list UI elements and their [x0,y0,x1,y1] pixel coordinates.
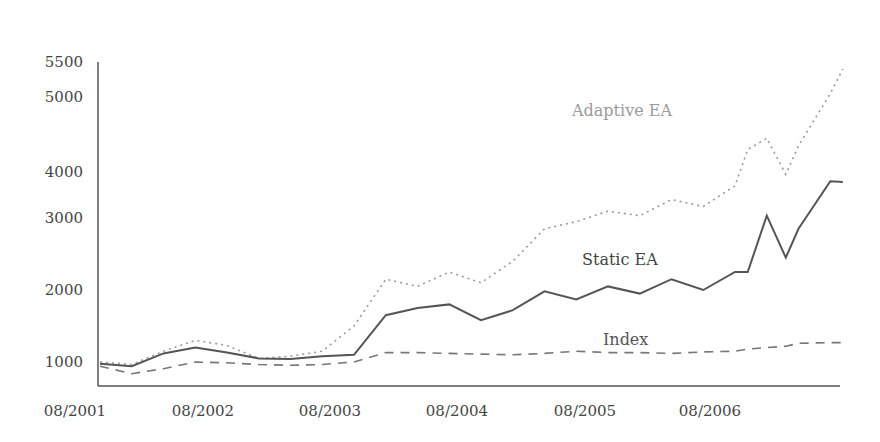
y-tick-1000: 1000 [45,353,83,371]
x-tick-2005: 08/2005 [554,402,616,420]
index-line [100,343,843,374]
x-tick-2001: 08/2001 [44,402,106,420]
x-tick-2003: 08/2003 [299,402,361,420]
x-tick-2004: 08/2004 [426,402,488,420]
y-tick-2000: 2000 [45,281,83,299]
static-ea-line [100,181,843,366]
series-layer [100,69,843,374]
series-labels: Adaptive EA Static EA Index [571,101,672,349]
y-tick-5500: 5500 [45,53,83,71]
x-tick-2002: 08/2002 [172,402,234,420]
line-chart: 5500 5000 4000 3000 2000 1000 08/2001 08… [0,0,880,442]
x-tick-2006: 08/2006 [679,402,741,420]
adaptive-ea-line [100,69,843,365]
y-tick-4000: 4000 [45,163,83,181]
static-ea-label: Static EA [582,250,658,269]
index-label: Index [603,330,648,349]
x-axis: 08/2001 08/2002 08/2003 08/2004 08/2005 … [44,386,840,420]
y-tick-5000: 5000 [45,88,83,106]
y-axis: 5500 5000 4000 3000 2000 1000 [45,53,98,386]
adaptive-ea-label: Adaptive EA [571,101,672,120]
y-tick-3000: 3000 [45,209,83,227]
